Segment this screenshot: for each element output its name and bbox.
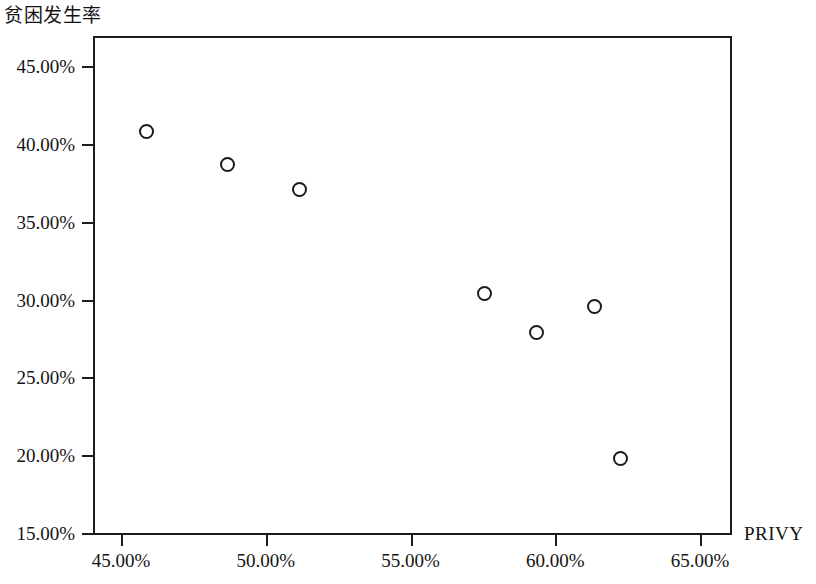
data-point xyxy=(587,299,602,314)
y-axis-tick-label: 25.00% xyxy=(16,368,75,387)
data-point xyxy=(292,182,307,197)
y-axis-tick xyxy=(82,533,93,535)
data-point xyxy=(529,325,544,340)
x-axis-tick xyxy=(555,535,557,546)
y-axis-tick xyxy=(82,66,93,68)
x-axis-title: PRIVY xyxy=(744,524,804,544)
y-axis-tick xyxy=(82,455,93,457)
data-point xyxy=(139,124,154,139)
y-axis-tick xyxy=(82,222,93,224)
y-axis-tick-label: 40.00% xyxy=(16,135,75,154)
y-axis-tick xyxy=(82,300,93,302)
data-point xyxy=(613,451,628,466)
y-axis-tick-label: 20.00% xyxy=(16,446,75,465)
x-axis-tick-label: 65.00% xyxy=(671,551,730,571)
y-axis-tick-label: 45.00% xyxy=(16,57,75,76)
x-axis-tick-label: 50.00% xyxy=(236,551,295,571)
x-axis-tick xyxy=(266,535,268,546)
y-axis-tick xyxy=(82,377,93,379)
y-axis-tick-label: 30.00% xyxy=(16,291,75,310)
scatter-plot-figure: 贫困发生率 15.00%20.00%25.00%30.00%35.00%40.0… xyxy=(0,0,816,584)
plot-area xyxy=(95,38,730,533)
x-axis-tick-label: 45.00% xyxy=(92,551,151,571)
x-axis-tick-label: 55.00% xyxy=(381,551,440,571)
x-axis-tick xyxy=(700,535,702,546)
x-axis-tick xyxy=(411,535,413,546)
y-axis-title: 贫困发生率 xyxy=(4,4,102,28)
x-axis-tick-label: 60.00% xyxy=(526,551,585,571)
plot-frame xyxy=(93,36,732,535)
x-axis-tick xyxy=(121,535,123,546)
data-point xyxy=(477,286,492,301)
y-axis-tick-label: 15.00% xyxy=(16,524,75,543)
data-point xyxy=(220,157,235,172)
y-axis-tick xyxy=(82,144,93,146)
y-axis-tick-label: 35.00% xyxy=(16,213,75,232)
